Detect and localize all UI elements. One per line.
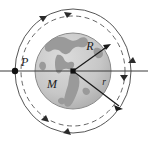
direction-arrow-right-dashed xyxy=(120,75,128,81)
orbit-diagram-canvas: P M R r xyxy=(0,0,148,145)
direction-arrow-top-solid xyxy=(64,12,72,18)
direction-arrow-right-solid xyxy=(128,57,136,63)
label-point-p: P xyxy=(20,55,29,69)
center-marker xyxy=(70,68,75,73)
point-p-marker xyxy=(12,68,18,74)
orbit-diagram-figure: P M R r xyxy=(0,0,148,145)
direction-arrow-bottom-solid xyxy=(63,128,71,135)
direction-arrow-top-dashed xyxy=(39,16,47,22)
label-earth-radius: R xyxy=(85,39,94,53)
direction-arrow-bottom-dashed xyxy=(41,115,49,122)
label-central-mass: M xyxy=(46,77,58,91)
label-orbit-radius: r xyxy=(102,77,106,87)
